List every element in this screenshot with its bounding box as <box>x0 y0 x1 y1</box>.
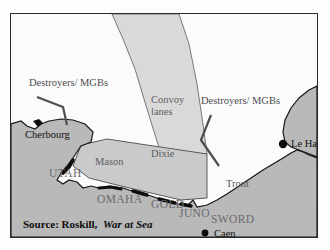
label-destroyers-mgbs-west: Destroyers/ MGBs <box>29 77 108 88</box>
map-canvas: Destroyers/ MGBs Destroyers/ MGBs Convoy… <box>11 14 317 237</box>
source-title: War at Sea <box>103 218 153 230</box>
normandy-invasion-map: Destroyers/ MGBs Destroyers/ MGBs Convoy… <box>0 0 330 250</box>
source-prefix: Source: Roskill, <box>23 218 98 230</box>
label-beach-sword: SWORD <box>211 213 255 225</box>
map-frame: Destroyers/ MGBs Destroyers/ MGBs Convoy… <box>10 13 318 238</box>
label-beach-omaha: OMAHA <box>97 193 143 205</box>
label-destroyers-mgbs-east: Destroyers/ MGBs <box>201 95 280 106</box>
le-havre-dot <box>279 140 287 148</box>
label-beach-utah: UTAH <box>49 167 82 179</box>
source-attribution: Source: Roskill, War at Sea <box>23 218 153 230</box>
caen-dot <box>202 230 209 237</box>
label-convoy-lanes-line2: lanes <box>151 106 173 117</box>
label-beach-juno: JUNO <box>179 207 210 219</box>
label-zone-mason: Mason <box>95 156 124 167</box>
label-zone-trout: Trout <box>226 178 249 189</box>
label-city-caen: Caen <box>214 228 236 237</box>
label-port-cherbourg: Cherbourg <box>25 129 70 140</box>
label-port-le-havre: Le Havre <box>291 138 317 149</box>
label-zone-dixie: Dixie <box>151 148 175 159</box>
label-convoy-lanes-line1: Convoy <box>151 94 185 105</box>
